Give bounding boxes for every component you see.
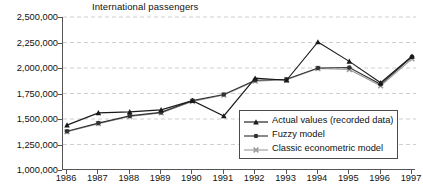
chart-title: International passengers [92,1,198,12]
data-point-triangle [346,59,352,64]
y-axis-tick-label: 2,000,000 [17,63,58,73]
legend-marker-triangle-icon [243,114,269,126]
legend-marker-cross-icon [243,142,269,154]
x-axis-tick-label: 1995 [338,173,359,183]
x-axis-tick-label: 1996 [369,173,390,183]
data-point-circle [316,66,321,71]
y-axis-labels: 1,000,0001,250,0001,500,0001,750,0002,00… [0,17,58,170]
chart-legend: Actual values (recorded data)Fuzzy model… [239,110,398,159]
legend-item: Actual values (recorded data) [243,113,393,127]
x-axis-tick-label: 1997 [401,173,422,183]
data-point-circle [222,92,227,97]
data-point-circle [127,114,132,119]
x-axis-labels: 1986198719881989199019911992199319941995… [62,172,415,188]
x-axis-tick-label: 1992 [244,173,265,183]
x-axis-tick-label: 1991 [212,173,233,183]
y-axis-tick-label: 1,500,000 [17,114,58,124]
x-axis-tick-label: 1988 [118,173,139,183]
x-axis-tick-label: 1987 [87,173,108,183]
x-axis-tick-label: 1989 [150,173,171,183]
data-point-circle [347,65,352,70]
x-axis-tick-label: 1986 [56,173,77,183]
chart-container: International passengers 1,000,0001,250,… [0,0,423,191]
x-axis-tick-label: 1990 [181,173,202,183]
y-axis-tick-label: 1,000,000 [17,165,58,175]
x-axis-tick-label: 1993 [275,173,296,183]
legend-marker-circle-icon [243,128,269,140]
y-axis-tick-label: 1,750,000 [17,89,58,99]
data-point-triangle [315,39,321,44]
legend-label: Actual values (recorded data) [269,115,393,125]
legend-label: Fuzzy model [269,129,325,139]
legend-label: Classic econometric model [269,143,383,153]
x-axis-tick-label: 1994 [307,173,328,183]
y-axis-tick-label: 2,500,000 [17,12,58,22]
data-point-circle [96,121,101,126]
legend-item: Fuzzy model [243,127,393,141]
data-point-circle [254,134,259,139]
y-axis-tick-label: 1,250,000 [17,140,58,150]
data-point-circle [65,129,70,134]
y-axis-tick-label: 2,250,000 [17,38,58,48]
legend-item: Classic econometric model [243,141,393,155]
